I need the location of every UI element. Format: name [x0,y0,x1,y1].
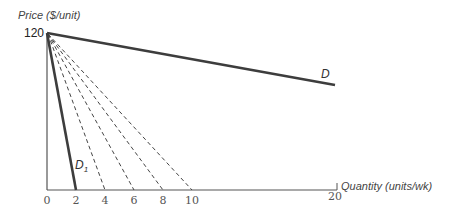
curve-label-d: D [321,67,330,81]
x-axis-label: Quantity (units/wk) [341,180,432,192]
x-tick-20: 20 [328,190,342,203]
x-tick-8: 8 [160,194,167,207]
demand-curve-d1 [47,33,76,190]
x-tick-0: 0 [44,194,51,207]
dashed-line-10 [48,34,192,190]
curve-label-d1: D1 [75,158,88,174]
x-tick-2: 2 [73,194,80,207]
x-tick-10: 10 [185,194,199,207]
demand-curve-d [47,33,335,85]
curve-label-d1-subscript: 1 [84,165,88,174]
x-tick-6: 6 [131,194,138,207]
x-tick-4: 4 [102,194,109,207]
y-tick-120: 120 [24,26,44,40]
dashed-line-8 [48,34,163,190]
y-axis-label: Price ($/unit) [18,9,80,21]
curve-label-d1-main: D [75,158,84,172]
